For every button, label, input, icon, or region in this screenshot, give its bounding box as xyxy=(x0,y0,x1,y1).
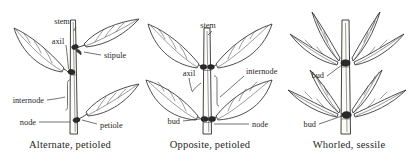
panel-alternate: stem axil stipule internode node petiole… xyxy=(0,0,140,163)
leaf-lower-left xyxy=(146,80,202,120)
label-node: node xyxy=(20,118,36,127)
leaf-mid-left xyxy=(14,28,69,73)
leaf-upper-right xyxy=(211,24,272,68)
leaf-upper-left xyxy=(148,24,203,68)
label-node: node xyxy=(252,120,268,129)
leaf-lower-right xyxy=(211,80,272,120)
leaf-lower-right xyxy=(77,84,139,120)
caption-whorled: Whorled, sessile xyxy=(280,139,418,150)
panel-opposite: stem axil internode bud node Opposite, p… xyxy=(140,0,280,163)
label-internode: internode xyxy=(246,67,278,76)
stem-shape xyxy=(70,20,78,134)
label-axil: axil xyxy=(52,37,65,46)
axil-curve xyxy=(192,83,201,92)
opposite-illustration: stem axil internode bud node xyxy=(140,0,280,140)
label-bud-lower: bud xyxy=(304,120,317,129)
label-stem: stem xyxy=(200,21,216,30)
internode-bracket xyxy=(214,76,219,106)
stipule-shape xyxy=(76,49,81,55)
leaf-arrangement-figure: stem axil stipule internode node petiole… xyxy=(0,0,418,163)
label-stipule: stipule xyxy=(104,51,126,60)
label-stem: stem xyxy=(54,17,70,26)
caption-opposite: Opposite, petioled xyxy=(140,139,280,150)
leaf-upper-right xyxy=(76,19,139,48)
internode-bracket xyxy=(66,80,71,110)
caption-alternate: Alternate, petioled xyxy=(0,139,140,150)
label-bud: bud xyxy=(168,117,181,126)
label-petiole: petiole xyxy=(100,121,123,130)
label-axil: axil xyxy=(183,69,196,78)
panel-whorled: bud bud Whorled, sessile xyxy=(280,0,418,163)
whorled-illustration: bud bud xyxy=(280,0,418,140)
alternate-illustration: stem axil stipule internode node petiole xyxy=(0,0,140,140)
label-internode: internode xyxy=(13,96,45,105)
label-bud-upper: bud xyxy=(312,71,325,80)
